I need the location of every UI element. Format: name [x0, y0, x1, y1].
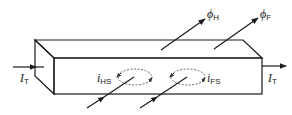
phi-f-arrow: [214, 18, 258, 49]
label-phi-h: ϕH: [207, 8, 219, 22]
bar-front-face: [54, 58, 262, 94]
conductor-bar: [35, 40, 262, 94]
label-ifs: iFS: [207, 72, 221, 86]
phi-h-arrow: [161, 19, 205, 50]
bar-top-face: [35, 40, 262, 58]
label-it-left: IT: [20, 72, 29, 86]
hs-flux-line: [87, 97, 104, 108]
label-phi-f: ϕF: [260, 8, 271, 22]
conductor-diagram: [0, 0, 292, 115]
label-ihs: iHS: [97, 72, 111, 86]
ifs-loop: [171, 69, 205, 85]
label-it-right: IT: [268, 72, 277, 86]
ihs-loop: [118, 69, 152, 85]
fs-flux-line: [140, 97, 157, 108]
